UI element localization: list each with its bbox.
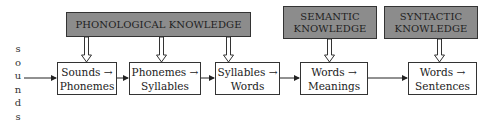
- stage-words-to-meanings: Words → Meanings: [300, 62, 368, 95]
- knowledge-label: PHONOLOGICAL KNOWLEDGE: [75, 19, 241, 31]
- stage-label-line2: Sentences: [415, 79, 470, 93]
- knowledge-label-line2: KNOWLEDGE: [294, 23, 367, 35]
- knowledge-down-arrows: [82, 37, 445, 62]
- stage-label-line1: Words →: [311, 65, 357, 79]
- syntactic-knowledge-box: SYNTACTIC KNOWLEDGE: [384, 6, 478, 39]
- stage-label-line2: Words: [231, 79, 265, 93]
- stage-label-line1: Words →: [420, 65, 466, 79]
- stage-words-to-sentences: Words → Sentences: [408, 62, 477, 95]
- phonological-knowledge-box: PHONOLOGICAL KNOWLEDGE: [66, 12, 251, 37]
- stage-label-line2: Meanings: [308, 79, 360, 93]
- knowledge-label-line1: SYNTACTIC: [400, 11, 462, 23]
- stage-sounds-to-phonemes: Sounds → Phonemes: [57, 62, 117, 95]
- stage-phonemes-to-syllables: Phonemes → Syllables: [129, 62, 201, 95]
- stage-label-line2: Phonemes: [60, 79, 115, 93]
- stage-label-line1: Sounds →: [61, 65, 112, 79]
- knowledge-label-line2: KNOWLEDGE: [395, 23, 468, 35]
- stage-label-line1: Syllables →: [218, 65, 278, 79]
- stage-label-line2: Syllables: [141, 79, 189, 93]
- stage-syllables-to-words: Syllables → Words: [215, 62, 280, 95]
- knowledge-label-line1: SEMANTIC: [300, 11, 359, 23]
- semantic-knowledge-box: SEMANTIC KNOWLEDGE: [283, 6, 377, 39]
- stage-label-line1: Phonemes →: [132, 65, 199, 79]
